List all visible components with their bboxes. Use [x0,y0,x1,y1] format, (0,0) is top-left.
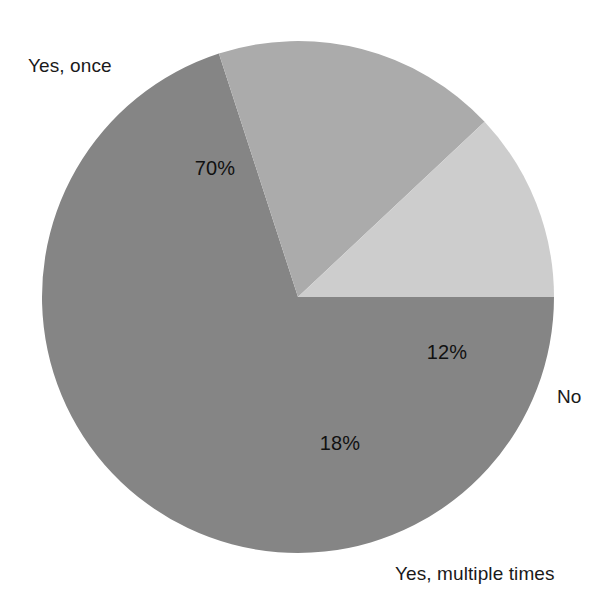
pie-chart: 70% 18% 12% Yes, once No Yes, multiple t… [0,0,616,608]
pie-chart-canvas [0,0,616,608]
pie-category-label-yes-once: Yes, once [28,55,112,77]
pie-category-label-yes-multiple-times: Yes, multiple times [395,563,555,585]
pie-slice-value-yes-multiple-times: 18% [320,432,361,455]
pie-slices [42,41,554,553]
pie-category-label-no: No [557,386,582,408]
pie-slice-value-no: 12% [427,341,468,364]
pie-slice-value-yes-once: 70% [195,157,236,180]
